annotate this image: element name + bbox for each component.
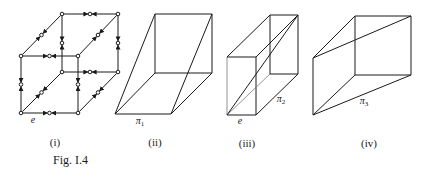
panel-ii-prism [115,14,212,114]
vertex-label-e-iii: e [238,116,242,126]
face-label-pi2: π2 [277,94,286,106]
vertex-label-e-i: e [31,115,35,125]
figure-caption: Fig. I.4 [53,154,88,166]
panel-iii-box [227,15,298,115]
face-label-pi1: π1 [136,116,145,128]
panel-i-cube-graph [19,12,120,115]
face-label-pi3: π3 [360,96,369,108]
panel-caption-ii: (ii) [148,137,161,148]
panel-caption-i: (i) [50,137,60,148]
panel-caption-iv: (iv) [361,138,377,149]
figure: e π1 π2 e π3 (i) (ii) (iii) (iv) Fig. I.… [0,0,428,173]
panel-caption-iii: (iii) [239,138,256,149]
